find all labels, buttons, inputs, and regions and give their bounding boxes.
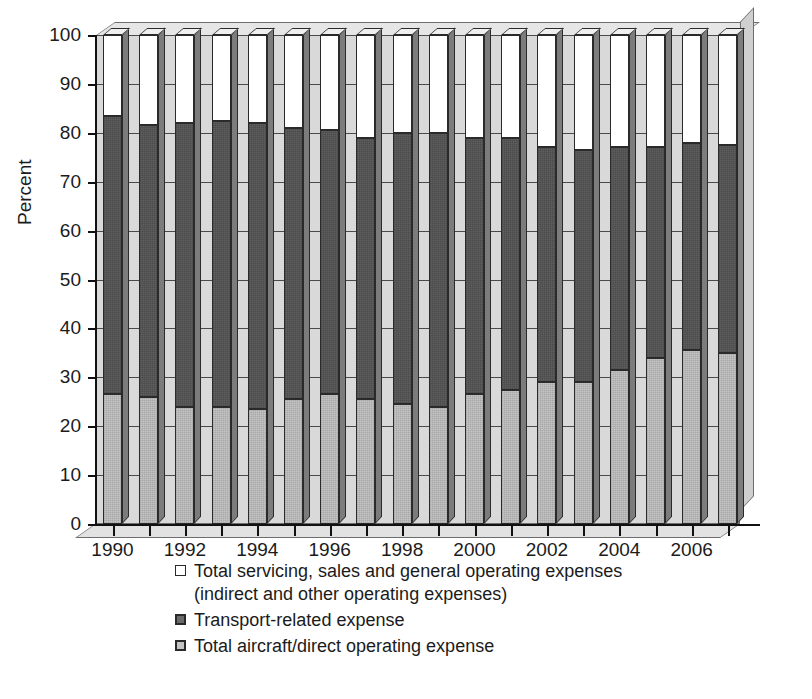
bar-2002[interactable]: [537, 35, 556, 524]
bar-segment-aircraft_direct-1999[interactable]: [429, 407, 448, 524]
y-tick-30: [88, 377, 97, 379]
bar-1996[interactable]: [320, 35, 339, 524]
bar-segment-servicing_sales_general-2006[interactable]: [682, 35, 701, 143]
bar-segment-servicing_sales_general-2005[interactable]: [646, 35, 665, 147]
bar-segment-aircraft_direct-2005[interactable]: [646, 358, 665, 524]
bar-side-face-2001: [520, 27, 527, 524]
bar-segment-aircraft_direct-2007[interactable]: [718, 353, 737, 524]
bar-segment-servicing_sales_general-1990[interactable]: [103, 35, 122, 116]
legend-item-0[interactable]: Total servicing, sales and general opera…: [175, 560, 775, 606]
y-tick-label-100: 100: [49, 25, 81, 44]
bar-side-face-1993: [231, 27, 238, 524]
bar-1997[interactable]: [356, 35, 375, 524]
bar-segment-transport_related-1991[interactable]: [139, 125, 158, 396]
bar-segment-servicing_sales_general-2003[interactable]: [574, 35, 593, 150]
y-tick-label-80: 80: [60, 123, 81, 142]
bar-segment-transport_related-2004[interactable]: [610, 147, 629, 369]
bar-segment-aircraft_direct-2004[interactable]: [610, 370, 629, 524]
bar-2004[interactable]: [610, 35, 629, 524]
bar-segment-servicing_sales_general-1996[interactable]: [320, 35, 339, 130]
x-tick-2005: [656, 526, 658, 536]
bar-1998[interactable]: [393, 35, 412, 524]
y-tick-90: [88, 84, 97, 86]
bar-segment-aircraft_direct-1992[interactable]: [175, 407, 194, 524]
legend-item-1[interactable]: Transport-related expense: [175, 609, 775, 632]
x-tick-label-1998: 1998: [381, 540, 423, 559]
bar-1994[interactable]: [248, 35, 267, 524]
bar-1993[interactable]: [212, 35, 231, 524]
bar-segment-transport_related-1997[interactable]: [356, 138, 375, 400]
bar-segment-transport_related-1999[interactable]: [429, 133, 448, 407]
x-tick-1992: [185, 526, 187, 536]
x-axis: 199019921994199619982000200220042006: [95, 524, 760, 526]
bar-segment-servicing_sales_general-2000[interactable]: [465, 35, 484, 138]
bar-segment-transport_related-1992[interactable]: [175, 123, 194, 407]
bar-segment-transport_related-2007[interactable]: [718, 145, 737, 353]
bar-1990[interactable]: [103, 35, 122, 524]
bar-1992[interactable]: [175, 35, 194, 524]
bar-segment-transport_related-2002[interactable]: [537, 147, 556, 382]
y-tick-70: [88, 182, 97, 184]
bar-2000[interactable]: [465, 35, 484, 524]
bar-segment-transport_related-1993[interactable]: [212, 121, 231, 407]
bar-segment-aircraft_direct-1993[interactable]: [212, 407, 231, 524]
bar-segment-transport_related-1995[interactable]: [284, 128, 303, 399]
bar-segment-servicing_sales_general-1994[interactable]: [248, 35, 267, 123]
bar-segment-transport_related-1994[interactable]: [248, 123, 267, 409]
y-tick-40: [88, 328, 97, 330]
bar-segment-aircraft_direct-1994[interactable]: [248, 409, 267, 524]
bar-1999[interactable]: [429, 35, 448, 524]
plot-area: [95, 35, 760, 524]
bar-segment-aircraft_direct-2002[interactable]: [537, 382, 556, 524]
bar-segment-transport_related-2000[interactable]: [465, 138, 484, 395]
bar-segment-aircraft_direct-2001[interactable]: [501, 390, 520, 524]
bar-segment-servicing_sales_general-1995[interactable]: [284, 35, 303, 128]
bar-segment-aircraft_direct-1995[interactable]: [284, 399, 303, 524]
bar-segment-aircraft_direct-2003[interactable]: [574, 382, 593, 524]
bar-1991[interactable]: [139, 35, 158, 524]
bar-segment-servicing_sales_general-2001[interactable]: [501, 35, 520, 138]
bar-segment-aircraft_direct-1991[interactable]: [139, 397, 158, 524]
bar-1995[interactable]: [284, 35, 303, 524]
y-tick-10: [88, 475, 97, 477]
y-tick-20: [88, 426, 97, 428]
bar-2006[interactable]: [682, 35, 701, 524]
x-tick-1996: [330, 526, 332, 536]
bar-segment-aircraft_direct-1997[interactable]: [356, 399, 375, 524]
bar-segment-servicing_sales_general-1992[interactable]: [175, 35, 194, 123]
bar-segment-aircraft_direct-1998[interactable]: [393, 404, 412, 524]
bar-segment-aircraft_direct-1996[interactable]: [320, 394, 339, 524]
x-tick-2000: [475, 526, 477, 536]
bar-2007[interactable]: [718, 35, 737, 524]
y-tick-label-60: 60: [60, 221, 81, 240]
bar-segment-transport_related-1998[interactable]: [393, 133, 412, 404]
bar-segment-transport_related-2006[interactable]: [682, 143, 701, 351]
bar-segment-servicing_sales_general-2004[interactable]: [610, 35, 629, 147]
bar-segment-aircraft_direct-1990[interactable]: [103, 394, 122, 524]
bar-2003[interactable]: [574, 35, 593, 524]
bar-segment-aircraft_direct-2006[interactable]: [682, 350, 701, 524]
bar-2005[interactable]: [646, 35, 665, 524]
bar-segment-servicing_sales_general-2002[interactable]: [537, 35, 556, 147]
bar-segment-servicing_sales_general-1998[interactable]: [393, 35, 412, 133]
chart-floor-deck: [75, 524, 740, 538]
bar-segment-transport_related-2003[interactable]: [574, 150, 593, 382]
y-tick-label-20: 20: [60, 416, 81, 435]
legend-item-2[interactable]: Total aircraft/direct operating expense: [175, 635, 775, 658]
bar-segment-transport_related-2005[interactable]: [646, 147, 665, 357]
bar-2001[interactable]: [501, 35, 520, 524]
bar-segment-transport_related-1996[interactable]: [320, 130, 339, 394]
bar-segment-transport_related-1990[interactable]: [103, 116, 122, 395]
bar-side-face-1990: [122, 27, 129, 524]
bar-segment-servicing_sales_general-1999[interactable]: [429, 35, 448, 133]
bar-segment-servicing_sales_general-1997[interactable]: [356, 35, 375, 138]
bar-segment-servicing_sales_general-2007[interactable]: [718, 35, 737, 145]
bar-segment-servicing_sales_general-1993[interactable]: [212, 35, 231, 121]
bar-segment-aircraft_direct-2000[interactable]: [465, 394, 484, 524]
x-tick-1994: [257, 526, 259, 536]
bar-side-face-1999: [448, 27, 455, 524]
bar-segment-servicing_sales_general-1991[interactable]: [139, 35, 158, 125]
bar-segment-transport_related-2001[interactable]: [501, 138, 520, 390]
x-tick-2002: [547, 526, 549, 536]
y-tick-label-90: 90: [60, 74, 81, 93]
